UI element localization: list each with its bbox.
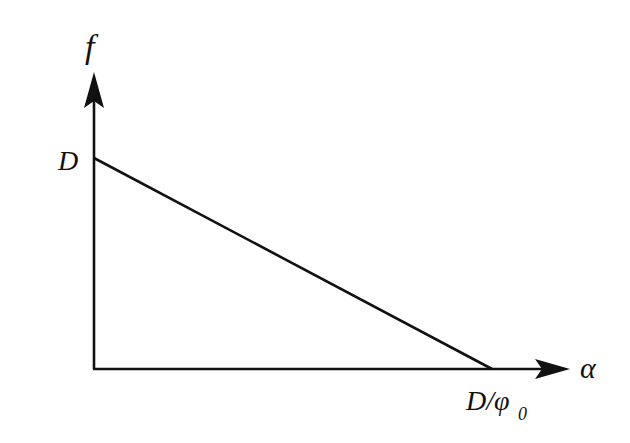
x-intercept-label: D/φ	[465, 385, 510, 416]
x-intercept-subscript: 0	[518, 404, 527, 424]
data-line	[94, 158, 492, 369]
y-intercept-label: D	[57, 145, 78, 176]
y-axis-label: f	[85, 28, 99, 65]
chart: f D α D/φ 0	[0, 0, 630, 443]
x-axis-label: α	[580, 351, 597, 384]
